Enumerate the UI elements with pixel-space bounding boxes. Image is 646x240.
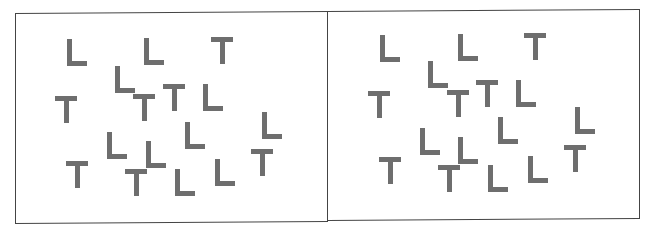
letter-stroke bbox=[115, 88, 135, 93]
right-letter-t bbox=[438, 165, 460, 192]
left-letter-t bbox=[133, 94, 155, 121]
right-letter-l bbox=[488, 165, 510, 192]
left-letter-l bbox=[107, 132, 129, 159]
right-letter-l bbox=[428, 61, 450, 88]
right-letter-t bbox=[368, 91, 390, 118]
letter-stroke bbox=[476, 80, 498, 85]
letter-stroke bbox=[203, 106, 223, 111]
letter-stroke bbox=[163, 84, 185, 89]
right-letter-l bbox=[575, 107, 597, 134]
left-letter-t bbox=[66, 161, 88, 188]
letter-stroke bbox=[251, 149, 273, 154]
letter-stroke bbox=[67, 61, 87, 66]
letter-stroke bbox=[175, 191, 195, 196]
right-letter-l bbox=[420, 128, 442, 155]
letter-stroke bbox=[458, 56, 478, 61]
letter-stroke bbox=[66, 161, 88, 166]
left-letter-l bbox=[144, 38, 166, 65]
letter-stroke bbox=[379, 157, 401, 162]
right-letter-l bbox=[498, 117, 520, 144]
left-letter-t bbox=[125, 169, 147, 196]
letter-stroke bbox=[438, 165, 460, 170]
letter-stroke bbox=[133, 94, 155, 99]
letter-stroke bbox=[380, 57, 400, 62]
right-letter-t bbox=[524, 33, 546, 60]
letter-stroke bbox=[524, 33, 546, 38]
left-letter-l bbox=[185, 122, 207, 149]
left-letter-l bbox=[215, 159, 237, 186]
left-letter-t bbox=[55, 96, 77, 123]
letter-stroke bbox=[528, 178, 548, 183]
letter-stroke bbox=[498, 139, 518, 144]
letter-stroke bbox=[144, 60, 164, 65]
right-letter-l bbox=[516, 80, 538, 107]
left-letter-t bbox=[211, 37, 233, 64]
left-letter-l bbox=[203, 84, 225, 111]
left-letter-l bbox=[115, 66, 137, 93]
letter-stroke bbox=[575, 129, 595, 134]
letter-stroke bbox=[185, 144, 205, 149]
right-letter-l bbox=[528, 156, 550, 183]
letter-stroke bbox=[262, 134, 282, 139]
letter-stroke bbox=[488, 187, 508, 192]
right-letter-l bbox=[458, 137, 480, 164]
letter-stroke bbox=[146, 163, 166, 168]
letter-stroke bbox=[458, 159, 478, 164]
letter-stroke bbox=[447, 90, 469, 95]
letter-stroke bbox=[516, 102, 536, 107]
left-letter-t bbox=[251, 149, 273, 176]
letter-stroke bbox=[55, 96, 77, 101]
right-letter-t bbox=[379, 157, 401, 184]
left-letter-l bbox=[146, 141, 168, 168]
letter-stroke bbox=[564, 145, 586, 150]
right-letter-t bbox=[447, 90, 469, 117]
letter-stroke bbox=[125, 169, 147, 174]
right-letter-l bbox=[380, 35, 402, 62]
left-letter-t bbox=[163, 84, 185, 111]
letter-stroke bbox=[211, 37, 233, 42]
letter-stroke bbox=[420, 150, 440, 155]
left-letter-l bbox=[175, 169, 197, 196]
letter-stroke bbox=[368, 91, 390, 96]
letter-stroke bbox=[107, 154, 127, 159]
left-letter-l bbox=[67, 39, 89, 66]
right-letter-t bbox=[564, 145, 586, 172]
letter-stroke bbox=[428, 83, 448, 88]
left-letter-l bbox=[262, 112, 284, 139]
right-letter-l bbox=[458, 34, 480, 61]
letter-stroke bbox=[215, 181, 235, 186]
right-letter-t bbox=[476, 80, 498, 107]
